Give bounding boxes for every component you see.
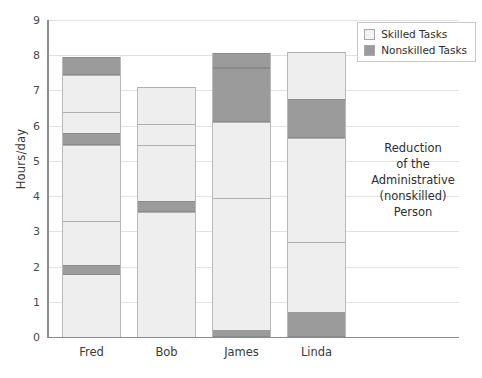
bar-segment-nonskilled[interactable] bbox=[63, 133, 120, 145]
stacked-bar-chart: Hours/day 0123456789 FredBobJamesLinda S… bbox=[0, 0, 482, 378]
annotation-line: Administrative bbox=[352, 172, 474, 188]
annotation-text: Reduction of the Administrative (nonskil… bbox=[352, 140, 474, 220]
bar-segment-nonskilled[interactable] bbox=[63, 265, 120, 276]
bar-segment-skilled[interactable] bbox=[138, 212, 195, 307]
bar-segment-skilled[interactable] bbox=[288, 138, 345, 242]
legend-swatch-nonskilled-icon bbox=[364, 45, 375, 56]
bar-segment-nonskilled[interactable] bbox=[213, 330, 270, 337]
bar-segment-nonskilled[interactable] bbox=[138, 201, 195, 212]
bar-segment-skilled[interactable] bbox=[213, 198, 270, 330]
bar-segment-nonskilled[interactable] bbox=[213, 53, 270, 67]
bar-segment-skilled[interactable] bbox=[63, 112, 120, 133]
y-axis-tick-label: 9 bbox=[24, 14, 40, 27]
annotation-line: (nonskilled) bbox=[352, 188, 474, 204]
bar-segment-nonskilled[interactable] bbox=[63, 57, 120, 75]
bar-segment-skilled[interactable] bbox=[138, 145, 195, 201]
y-axis-tick-label: 6 bbox=[24, 119, 40, 132]
bar-segment-nonskilled[interactable] bbox=[288, 99, 345, 138]
legend-item-skilled: Skilled Tasks bbox=[364, 28, 467, 40]
x-axis-line bbox=[47, 337, 459, 338]
legend-swatch-skilled-icon bbox=[364, 29, 375, 40]
x-axis-tick-label-linda: Linda bbox=[272, 345, 362, 359]
bar-segment-nonskilled[interactable] bbox=[213, 68, 270, 123]
y-axis-tick-label: 3 bbox=[24, 225, 40, 238]
bar-segment-skilled[interactable] bbox=[213, 122, 270, 198]
y-axis-tick-label: 1 bbox=[24, 295, 40, 308]
y-axis-tick-label: 7 bbox=[24, 84, 40, 97]
bar-segment-skilled[interactable] bbox=[138, 124, 195, 145]
y-axis-tick-label: 4 bbox=[24, 190, 40, 203]
bar-segment-skilled[interactable] bbox=[63, 275, 120, 337]
bar-segment-skilled[interactable] bbox=[288, 242, 345, 312]
y-axis-tick-label: 5 bbox=[24, 154, 40, 167]
gridline bbox=[48, 20, 459, 21]
legend: Skilled Tasks Nonskilled Tasks bbox=[357, 22, 476, 62]
legend-label-skilled: Skilled Tasks bbox=[381, 28, 447, 40]
bar-james[interactable] bbox=[212, 53, 271, 337]
y-axis-tick-label: 8 bbox=[24, 49, 40, 62]
legend-label-nonskilled: Nonskilled Tasks bbox=[381, 44, 467, 56]
bar-segment-skilled[interactable] bbox=[63, 75, 120, 112]
legend-item-nonskilled: Nonskilled Tasks bbox=[364, 44, 467, 56]
bar-segment-skilled[interactable] bbox=[288, 52, 345, 100]
y-axis-line bbox=[47, 20, 49, 338]
bar-segment-nonskilled[interactable] bbox=[288, 312, 345, 337]
y-axis-tick-label: 0 bbox=[24, 331, 40, 344]
y-axis-tick-label: 2 bbox=[24, 260, 40, 273]
bar-fred[interactable] bbox=[62, 57, 121, 337]
bar-segment-skilled[interactable] bbox=[138, 307, 195, 337]
annotation-line: Person bbox=[352, 204, 474, 220]
annotation-line: Reduction bbox=[352, 140, 474, 156]
bar-bob[interactable] bbox=[137, 87, 196, 337]
bar-segment-skilled[interactable] bbox=[138, 87, 195, 124]
annotation-line: of the bbox=[352, 156, 474, 172]
bar-linda[interactable] bbox=[287, 52, 346, 337]
bar-segment-skilled[interactable] bbox=[63, 221, 120, 265]
bar-segment-skilled[interactable] bbox=[63, 145, 120, 221]
